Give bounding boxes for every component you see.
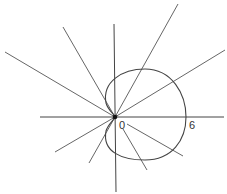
y-axis [114, 24, 116, 192]
ray-line [115, 4, 178, 117]
origin-label: 0 [119, 119, 125, 131]
ray-line [115, 50, 225, 117]
ray-line [127, 124, 183, 156]
pole-point [113, 115, 118, 120]
ray-line [63, 27, 115, 117]
ray-line [89, 117, 115, 163]
ray-line [123, 129, 147, 170]
cardioid-curve [105, 69, 186, 160]
polar-diagram: 0 6 [0, 0, 227, 194]
ray-line [5, 52, 115, 117]
radius-label: 6 [189, 119, 195, 131]
